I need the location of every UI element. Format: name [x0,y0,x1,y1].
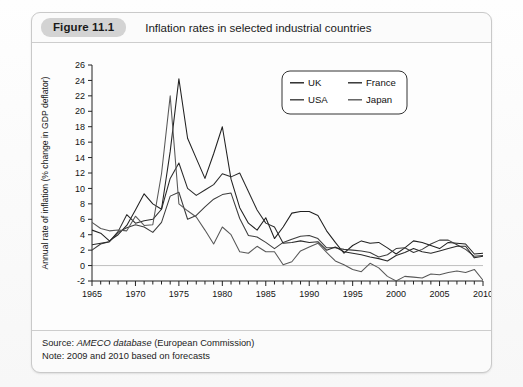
figure-header: Figure 11.1 Inflation rates in selected … [32,13,491,43]
x-axis-tick-label: 1995 [343,289,363,299]
x-axis-tick-label: 2005 [430,289,450,299]
y-axis-title: Annual rate of inflation (% change in GD… [40,76,50,269]
x-axis-tick-label: 1985 [256,289,276,299]
figure-number-badge: Figure 11.1 [41,18,126,37]
inflation-line-chart: -202468101214161820222426196519701975198… [32,43,491,330]
chart-panel: -202468101214161820222426196519701975198… [32,43,491,330]
y-axis-tick-label: 14 [75,153,85,163]
source-line: Source: AMECO database (European Commiss… [42,337,491,350]
figure-caption: Inflation rates in selected industrial c… [145,22,371,34]
y-axis-tick-label: 20 [75,106,85,116]
x-axis-tick-label: 1980 [212,289,232,299]
y-axis-tick-label: -2 [77,276,85,286]
figure-footer: Source: AMECO database (European Commiss… [32,330,491,373]
y-axis-tick-label: 6 [80,214,85,224]
y-axis-tick-label: 4 [80,230,85,240]
source-suffix: (European Commission) [152,338,255,348]
screenshot-root: Figure 11.1 Inflation rates in selected … [0,0,523,387]
y-axis-tick-label: 12 [75,168,85,178]
legend-label-usa: USA [308,94,328,105]
legend-label-france: France [366,77,396,88]
x-axis-tick-label: 2000 [386,289,406,299]
y-axis-tick-label: 18 [75,122,85,132]
y-axis-tick-label: 2 [80,245,85,255]
source-database-name: AMECO database [77,338,152,348]
series-line-france [92,163,483,261]
x-axis-tick-label: 2010 [473,289,491,299]
series-line-japan [92,96,483,281]
figure-container: Figure 11.1 Inflation rates in selected … [31,12,492,373]
legend-label-japan: Japan [366,94,392,105]
note-line: Note: 2009 and 2010 based on forecasts [42,350,491,363]
x-axis-tick-label: 1975 [169,289,189,299]
y-axis-tick-label: 8 [80,199,85,209]
y-axis-tick-label: 16 [75,137,85,147]
y-axis-tick-label: 26 [75,60,85,70]
chart-legend: UKFranceUSAJapan [282,71,407,114]
x-axis-tick-label: 1970 [125,289,145,299]
y-axis-tick-label: 24 [75,76,85,86]
legend-label-uk: UK [308,77,322,88]
y-axis-tick-label: 22 [75,91,85,101]
x-axis-tick-label: 1965 [82,289,102,299]
x-axis-tick-label: 1990 [299,289,319,299]
y-axis-tick-label: 0 [80,261,85,271]
y-axis-tick-label: 10 [75,184,85,194]
source-prefix: Source: [42,338,77,348]
